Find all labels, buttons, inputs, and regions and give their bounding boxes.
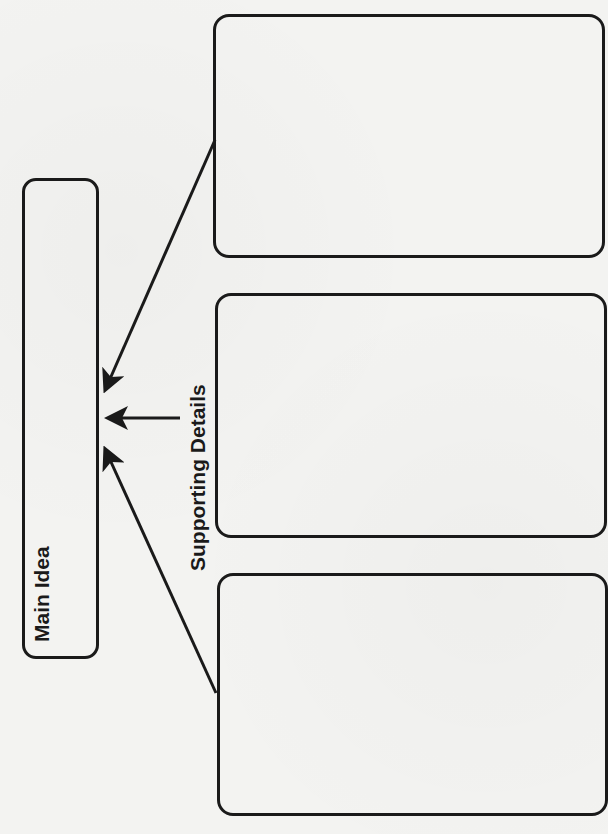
arrow-bottom-icon	[106, 451, 216, 693]
arrow-top-icon	[106, 140, 215, 388]
arrows-layer	[0, 0, 608, 834]
